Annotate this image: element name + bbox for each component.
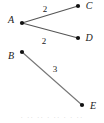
graph-figure: A B C D E 2 2 3 · ·· ·· · ·· · · ·· xyxy=(0,0,104,123)
node-label-B: B xyxy=(8,51,14,61)
edge-weight-AD: 2 xyxy=(42,37,47,46)
edge-weight-BE: 3 xyxy=(53,65,58,74)
node-dot-C xyxy=(76,4,80,8)
node-label-E: E xyxy=(90,101,96,111)
edge-lines xyxy=(22,6,82,105)
edge-weight-AC: 2 xyxy=(43,5,48,14)
node-dot-B xyxy=(20,50,24,54)
node-dot-A xyxy=(20,21,24,25)
node-dot-D xyxy=(76,36,80,40)
node-dot-E xyxy=(80,103,84,107)
edge-line-AD xyxy=(22,23,78,38)
node-label-C: C xyxy=(86,1,93,11)
node-label-A: A xyxy=(8,15,14,25)
cropped-text-artifact: · ·· ·· · ·· · · ·· xyxy=(0,114,104,123)
edge-line-AC xyxy=(22,6,78,23)
edge-line-BE xyxy=(22,52,82,105)
node-label-D: D xyxy=(85,33,92,43)
graph-canvas xyxy=(0,0,104,123)
node-dots xyxy=(20,4,84,107)
